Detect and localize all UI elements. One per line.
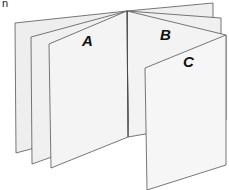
label-b: B xyxy=(160,26,171,43)
label-c: C xyxy=(183,53,195,70)
booklet-diagram: A B C xyxy=(0,0,229,190)
label-a: A xyxy=(81,32,93,49)
